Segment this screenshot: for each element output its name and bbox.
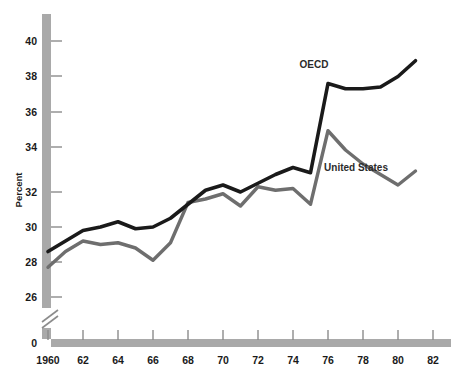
y-axis-bar	[42, 14, 51, 339]
line-chart: 40 38 36 34 32 30 28 26 0 Percent 1960 6…	[0, 0, 459, 371]
y-tick-label-28: 28	[25, 256, 37, 268]
y-tick-label-36: 36	[25, 106, 37, 118]
x-tick-label-80: 80	[392, 354, 404, 366]
series-label-oecd: OECD	[300, 59, 329, 70]
x-tick-label-64: 64	[112, 354, 124, 366]
y-tick-label-0: 0	[31, 337, 37, 349]
x-tick-label-62: 62	[77, 354, 89, 366]
x-tick-label-68: 68	[182, 354, 194, 366]
x-tick-label-74: 74	[287, 354, 299, 366]
x-tick-label-78: 78	[357, 354, 369, 366]
x-tick-label-82: 82	[427, 354, 439, 366]
y-axis-title: Percent	[13, 172, 24, 208]
x-tick-label-66: 66	[147, 354, 159, 366]
series-label-united-states: United States	[324, 162, 388, 173]
y-tick-label-32: 32	[25, 186, 37, 198]
chart-background	[0, 0, 459, 371]
y-tick-label-30: 30	[25, 221, 37, 233]
x-tick-label-76: 76	[322, 354, 334, 366]
x-axis-bar	[51, 339, 451, 347]
y-tick-label-26: 26	[25, 291, 37, 303]
x-tick-label-72: 72	[252, 354, 264, 366]
y-tick-label-38: 38	[25, 70, 37, 82]
x-tick-label-70: 70	[217, 354, 229, 366]
y-tick-label-34: 34	[25, 141, 37, 153]
chart-container: 40 38 36 34 32 30 28 26 0 Percent 1960 6…	[0, 0, 459, 371]
y-tick-label-40: 40	[25, 35, 37, 47]
x-tick-label-1960: 1960	[36, 354, 60, 366]
